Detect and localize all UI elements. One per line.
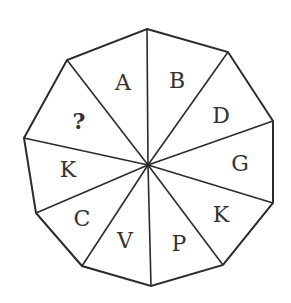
segment-label-question: ?	[73, 108, 86, 134]
spoke	[148, 121, 273, 165]
spoke	[82, 165, 148, 266]
spoke	[36, 165, 148, 213]
segment-label-a: A	[114, 70, 132, 95]
spoke	[148, 165, 151, 286]
segment-label-p: P	[172, 231, 187, 256]
segment-labels: A B D G K P V C K ?	[60, 68, 249, 256]
segment-label-k-right: K	[213, 202, 230, 227]
segment-label-b: B	[169, 68, 185, 93]
spoke	[147, 29, 148, 165]
segment-label-d: D	[212, 103, 230, 128]
segment-label-k-left: K	[60, 157, 77, 182]
segment-label-v: V	[116, 228, 134, 253]
segment-label-g: G	[231, 151, 249, 176]
segment-label-c: C	[74, 206, 91, 231]
spoke	[148, 165, 273, 203]
decagon-puzzle: A B D G K P V C K ?	[0, 0, 291, 303]
